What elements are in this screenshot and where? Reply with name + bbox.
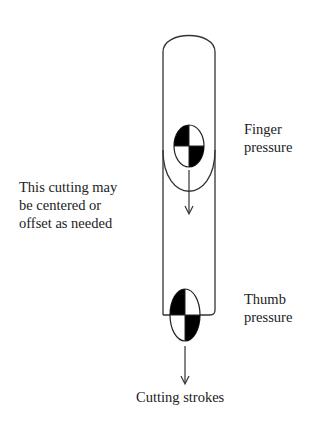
cutting-stroke-arrow <box>181 346 189 384</box>
thumb-pressure-line-1: Thumb <box>244 290 292 308</box>
cutting-note-label: This cutting may be centered or offset a… <box>19 178 117 232</box>
thumb-pressure-line-2: pressure <box>244 308 292 326</box>
finger-pressure-marker <box>174 125 204 167</box>
finger-pressure-line-2: pressure <box>244 138 292 156</box>
cutting-note-line-2: be centered or <box>19 196 117 214</box>
cutting-note-line-3: offset as needed <box>19 214 117 232</box>
upper-direction-arrow <box>185 170 193 214</box>
finger-pressure-line-1: Finger <box>244 120 292 138</box>
thumb-pressure-marker <box>170 289 200 341</box>
cutting-note-line-1: This cutting may <box>19 178 117 196</box>
cutting-strokes-label: Cutting strokes <box>136 388 224 406</box>
thumb-pressure-label: Thumb pressure <box>244 290 292 326</box>
finger-pressure-label: Finger pressure <box>244 120 292 156</box>
